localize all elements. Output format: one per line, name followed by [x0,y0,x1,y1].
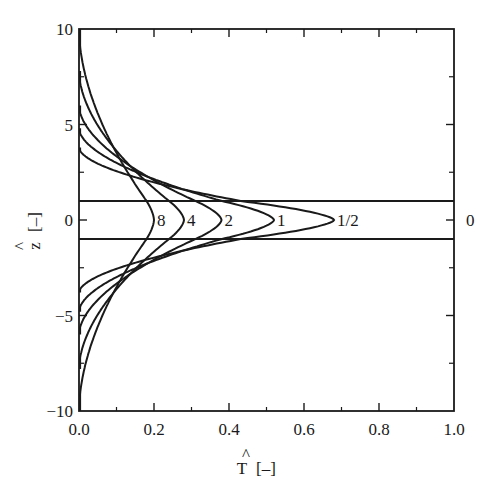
x-axis-unit: [–] [256,459,276,478]
plot-frame [79,29,454,411]
y-axis-unit: [–] [25,212,44,232]
x-axis-title: ^ T [–] [237,445,276,478]
curve-label-2: 2 [225,211,234,230]
curves-group [80,29,334,411]
x-tick-label: 0.0 [68,420,89,439]
x-tick-label: 0.6 [293,420,314,439]
curve-2 [80,105,221,334]
y-tick-label: 10 [56,20,73,39]
y-tick-label: −10 [46,402,73,421]
y-axis-title: ^ z [–] [11,212,44,250]
curve-1 [80,128,274,311]
curve-label-8: 8 [157,211,166,230]
curve-4 [80,71,184,369]
curve-label-1: 1 [277,211,286,230]
curve-label-4: 4 [187,211,196,230]
x-tick-label: 1.0 [443,420,464,439]
y-tick-label: −5 [55,307,73,326]
x-tick-label: 0.2 [143,420,164,439]
y-axis-symbol: z [25,242,44,250]
x-tick-label: 0.8 [368,420,389,439]
y-tick-label: 0 [65,211,74,230]
chart: 0.00.20.40.60.81.0−10−50510 01/21248 ^ T… [0,0,493,494]
axis-ticks [79,29,454,411]
plot-border [79,29,454,411]
curve-1-2 [80,147,334,292]
curve-label-0: 0 [466,211,475,230]
x-tick-label: 0.4 [218,420,240,439]
x-axis-symbol: T [237,459,248,478]
curve-8 [80,29,154,411]
curve-label-1-2: 1/2 [337,211,359,230]
band-lines [79,201,454,239]
y-tick-label: 5 [65,116,74,135]
